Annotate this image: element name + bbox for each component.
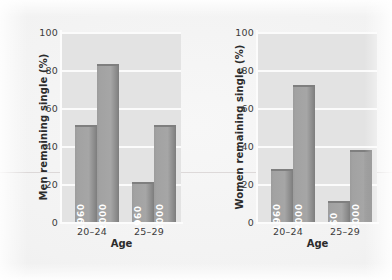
y-tick-men-100: 100 <box>18 27 58 38</box>
y-tick-women-20: 20 <box>214 179 254 190</box>
chart-panel-men: Men remaining single (%) 100 80 60 40 20… <box>0 0 196 280</box>
bar-women-2024-1960: 1960 <box>271 169 293 222</box>
chart-panel-women: Women remaining single (%) 100 80 60 40 … <box>196 0 392 280</box>
y-axis-ticks-men: 100 80 60 40 20 0 <box>14 32 58 222</box>
y-tick-women-40: 40 <box>214 141 254 152</box>
bar-men-2024-1960: 1960 <box>75 125 97 222</box>
y-tick-women-80: 80 <box>214 65 254 76</box>
plot-inner-women: 1960 2000 60 2000 <box>258 32 377 222</box>
plot-area-women: 1960 2000 60 2000 <box>258 32 377 222</box>
bar-women-2529-2000: 2000 <box>350 150 372 222</box>
x-tick-women-2529: 25–29 <box>315 226 375 237</box>
gridline-men-60 <box>62 108 181 110</box>
x-tick-women-2024: 20–24 <box>258 226 318 237</box>
x-axis-title-women: Age <box>258 238 377 249</box>
chart-page: Men remaining single (%) 100 80 60 40 20… <box>0 0 392 280</box>
gridline-women-60 <box>258 108 377 110</box>
y-tick-women-0: 0 <box>214 217 254 228</box>
y-tick-men-0: 0 <box>18 217 58 228</box>
gridline-women-40 <box>258 146 377 148</box>
gridline-women-80 <box>258 70 377 72</box>
bar-women-2024-2000: 2000 <box>293 85 315 222</box>
bar-women-2529-1960: 60 <box>328 201 350 222</box>
y-tick-men-60: 60 <box>18 103 58 114</box>
plot-area-men: 1960 2000 1960 2000 <box>62 32 181 222</box>
y-tick-women-100: 100 <box>214 27 254 38</box>
plot-inner-men: 1960 2000 1960 2000 <box>62 32 181 222</box>
x-tick-men-2529: 25–29 <box>119 226 179 237</box>
y-tick-men-80: 80 <box>18 65 58 76</box>
bar-men-2529-2000: 2000 <box>154 125 176 222</box>
y-tick-women-60: 60 <box>214 103 254 114</box>
gridline-women-100 <box>258 32 377 34</box>
x-tick-men-2024: 20–24 <box>62 226 122 237</box>
bar-men-2024-2000: 2000 <box>97 64 119 222</box>
bar-label-women-2529-1960: 60 <box>329 212 339 226</box>
bar-men-2529-1960: 1960 <box>132 182 154 222</box>
x-axis-title-men: Age <box>62 238 181 249</box>
gridline-men-80 <box>62 70 181 72</box>
y-tick-men-20: 20 <box>18 179 58 190</box>
gridline-men-100 <box>62 32 181 34</box>
y-tick-men-40: 40 <box>18 141 58 152</box>
y-axis-ticks-women: 100 80 60 40 20 0 <box>210 32 254 222</box>
